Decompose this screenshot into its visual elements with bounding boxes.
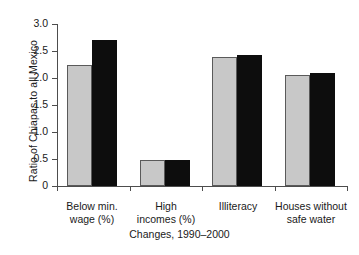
bar-high-incomes-2000 xyxy=(165,160,190,186)
x-tick-0 xyxy=(57,186,58,191)
bar-below-min-wage-1990 xyxy=(67,65,92,186)
y-tick-label-3: 1.5 xyxy=(33,98,48,110)
x-category-label-1-line-2: incomes (%) xyxy=(121,213,211,226)
y-tick-label-2: 1.0 xyxy=(33,125,48,137)
y-tick-6: 3.0 xyxy=(52,24,57,25)
bar-below-min-wage-2000 xyxy=(92,40,117,186)
bar-houses-without-safe-water-2000 xyxy=(310,73,335,186)
y-tick-label-0: 0 xyxy=(42,179,48,191)
chart-figure: Ratio of Chiapas to all Mexico 3.0 2.5 2… xyxy=(0,0,359,255)
x-category-label-3-line-1: Houses without xyxy=(266,200,356,213)
x-category-label-3-line-2: safe water xyxy=(266,213,356,226)
y-tick-4: 2.0 xyxy=(52,78,57,79)
bar-illiteracy-1990 xyxy=(212,57,237,186)
y-tick-label-4: 2.0 xyxy=(33,71,48,83)
x-tick-3 xyxy=(275,186,276,191)
bar-houses-without-safe-water-1990 xyxy=(285,75,310,186)
y-tick-2: 1.0 xyxy=(52,132,57,133)
y-tick-5: 2.5 xyxy=(52,51,57,52)
bar-illiteracy-2000 xyxy=(237,55,262,186)
x-tick-4 xyxy=(347,186,348,191)
y-tick-label-5: 2.5 xyxy=(33,44,48,56)
y-axis-line xyxy=(57,24,58,186)
y-tick-label-1: 0.5 xyxy=(33,152,48,164)
plot-area: 3.0 2.5 2.0 1.5 1.0 0.5 0 xyxy=(57,24,348,186)
x-axis-title: Changes, 1990–2000 xyxy=(0,228,359,240)
x-category-label-3: Houses without safe water xyxy=(266,200,356,225)
y-tick-label-6: 3.0 xyxy=(33,17,48,29)
y-tick-1: 0.5 xyxy=(52,159,57,160)
x-tick-1 xyxy=(130,186,131,191)
bar-high-incomes-1990 xyxy=(140,160,165,186)
x-tick-2 xyxy=(202,186,203,191)
y-tick-3: 1.5 xyxy=(52,105,57,106)
